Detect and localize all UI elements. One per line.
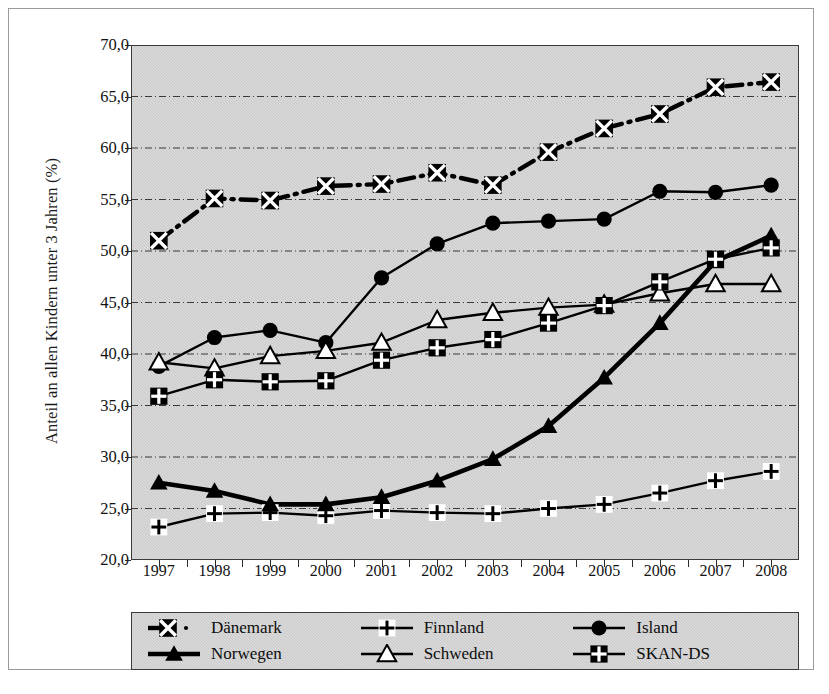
legend-item-dänemark[interactable]: Dänemark bbox=[146, 618, 359, 638]
data-point-island-2007 bbox=[708, 185, 723, 200]
x-tick-mark-minor bbox=[298, 560, 299, 567]
data-point-finnland-2004 bbox=[540, 500, 557, 517]
data-point-finnland-1997 bbox=[150, 519, 167, 536]
x-tick-mark bbox=[159, 560, 160, 567]
y-tick-mark bbox=[125, 303, 131, 304]
y-tick-mark bbox=[125, 45, 131, 46]
x-tick-mark-minor bbox=[632, 560, 633, 567]
series-line-schweden bbox=[159, 284, 771, 368]
legend-marker-open-triangle-icon bbox=[359, 644, 417, 664]
legend-item-skan-ds[interactable]: SKAN-DS bbox=[571, 644, 784, 664]
data-point-skan-ds-2000 bbox=[317, 372, 334, 389]
data-point-dänemark-2005 bbox=[595, 120, 613, 138]
legend-label: Norwegen bbox=[211, 644, 282, 664]
data-point-island-2005 bbox=[597, 211, 612, 226]
x-tick-mark bbox=[382, 560, 383, 567]
x-tick-mark-minor bbox=[465, 560, 466, 567]
data-point-skan-ds-1998 bbox=[206, 371, 223, 388]
data-layer bbox=[131, 45, 799, 560]
series-line-skan-ds bbox=[159, 248, 771, 396]
data-point-dänemark-2006 bbox=[651, 105, 669, 123]
x-tick-mark-minor bbox=[688, 560, 689, 567]
legend-item-finnland[interactable]: Finnland bbox=[359, 618, 572, 638]
y-tick-mark bbox=[125, 560, 131, 561]
x-tick-mark bbox=[716, 560, 717, 567]
data-point-dänemark-2008 bbox=[762, 73, 780, 91]
x-tick-mark-minor bbox=[743, 560, 744, 567]
data-point-finnland-2005 bbox=[596, 496, 613, 513]
data-point-island-1999 bbox=[263, 323, 278, 338]
x-tick-mark bbox=[215, 560, 216, 567]
legend-label: SKAN-DS bbox=[636, 644, 710, 664]
x-tick-mark-minor bbox=[242, 560, 243, 567]
legend-marker-filled-circle-icon bbox=[571, 618, 629, 638]
chart-figure: Anteil an allen Kindern unter 3 Jahren (… bbox=[0, 0, 829, 694]
legend-label: Finnland bbox=[424, 618, 484, 638]
data-point-island-2006 bbox=[652, 184, 667, 199]
legend-glyph-x-in-square bbox=[159, 619, 177, 637]
y-tick-mark bbox=[125, 457, 131, 458]
legend-glyph-plus-in-white-square bbox=[378, 620, 395, 637]
legend-item-norwegen[interactable]: Norwegen bbox=[146, 644, 359, 664]
x-tick-mark bbox=[326, 560, 327, 567]
data-point-dänemark-2002 bbox=[428, 164, 446, 182]
figure-border: Anteil an allen Kindern unter 3 Jahren (… bbox=[8, 8, 814, 670]
x-tick-mark-minor bbox=[409, 560, 410, 567]
x-tick-mark bbox=[493, 560, 494, 567]
x-tick-mark-minor bbox=[354, 560, 355, 567]
data-point-finnland-2002 bbox=[429, 504, 446, 521]
legend-item-schweden[interactable]: Schweden bbox=[359, 644, 572, 664]
series-line-island bbox=[159, 185, 771, 366]
data-point-dänemark-2003 bbox=[484, 176, 502, 194]
legend-marker-x-in-square-icon bbox=[146, 618, 204, 638]
x-tick-mark bbox=[604, 560, 605, 567]
data-point-skan-ds-2008 bbox=[763, 239, 780, 256]
data-point-skan-ds-2001 bbox=[373, 352, 390, 369]
x-tick-mark bbox=[270, 560, 271, 567]
data-point-dänemark-1997 bbox=[150, 232, 168, 250]
legend-label: Schweden bbox=[424, 644, 494, 664]
legend-marker-plus-in-black-square-icon bbox=[571, 644, 629, 664]
y-tick-mark bbox=[125, 251, 131, 252]
x-tick-mark-minor bbox=[576, 560, 577, 567]
x-tick-mark bbox=[437, 560, 438, 567]
legend-item-island[interactable]: Island bbox=[571, 618, 784, 638]
legend-label: Dänemark bbox=[211, 618, 282, 638]
data-point-island-1998 bbox=[207, 330, 222, 345]
y-axis-title: Anteil an allen Kindern unter 3 Jahren (… bbox=[42, 66, 62, 536]
data-point-dänemark-2001 bbox=[373, 175, 391, 193]
legend-swatch bbox=[571, 618, 629, 638]
x-tick-mark bbox=[771, 560, 772, 567]
series-line-dänemark bbox=[159, 82, 771, 241]
data-point-dänemark-2007 bbox=[707, 78, 725, 96]
legend-swatch bbox=[359, 644, 417, 664]
legend-swatch bbox=[571, 644, 629, 664]
data-point-dänemark-1998 bbox=[206, 190, 224, 208]
data-point-skan-ds-2002 bbox=[429, 339, 446, 356]
data-point-skan-ds-1999 bbox=[262, 373, 279, 390]
series-line-norwegen bbox=[159, 236, 771, 505]
legend-marker-filled-triangle-icon bbox=[146, 644, 204, 664]
legend-label: Island bbox=[636, 618, 678, 638]
x-tick-mark bbox=[660, 560, 661, 567]
legend-marker-plus-in-white-square-icon bbox=[359, 618, 417, 638]
chart-legend: DänemarkFinnlandIslandNorwegenSchwedenSK… bbox=[131, 612, 799, 670]
data-point-finnland-2001 bbox=[373, 502, 390, 519]
data-point-skan-ds-2005 bbox=[596, 297, 613, 314]
data-point-dänemark-2004 bbox=[540, 143, 558, 161]
data-point-finnland-2008 bbox=[763, 463, 780, 480]
data-point-island-2001 bbox=[374, 270, 389, 285]
data-point-island-2008 bbox=[764, 177, 779, 192]
data-point-island-2003 bbox=[485, 216, 500, 231]
data-point-island-2004 bbox=[541, 214, 556, 229]
data-point-schweden-2001 bbox=[372, 333, 390, 349]
y-tick-mark bbox=[125, 354, 131, 355]
data-point-skan-ds-1997 bbox=[150, 388, 167, 405]
x-tick-mark bbox=[549, 560, 550, 567]
y-tick-mark bbox=[125, 148, 131, 149]
legend-glyph-plus-in-black-square bbox=[591, 645, 608, 662]
x-tick-mark-minor bbox=[187, 560, 188, 567]
data-point-skan-ds-2004 bbox=[540, 315, 557, 332]
legend-swatch bbox=[146, 618, 204, 638]
data-point-skan-ds-2007 bbox=[707, 251, 724, 268]
